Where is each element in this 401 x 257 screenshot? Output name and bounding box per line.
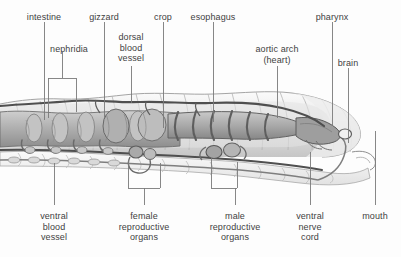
earthworm-anatomy-figure: intestine nephridia gizzard dorsal blood… [0, 0, 401, 257]
label-female-reproductive-organs: female reproductive organs [119, 211, 170, 243]
label-esophagus: esophagus [191, 12, 236, 23]
brain [339, 129, 352, 139]
label-male-reproductive-organs: male reproductive organs [210, 211, 261, 243]
label-gizzard: gizzard [89, 12, 119, 23]
label-aortic-arch: aortic arch (heart) [255, 44, 298, 65]
label-mouth: mouth [362, 211, 388, 222]
label-intestine: intestine [27, 12, 61, 23]
label-dorsal-blood-vessel: dorsal blood vessel [118, 32, 144, 64]
crop [138, 109, 166, 141]
label-crop: crop [154, 12, 172, 23]
mouth [352, 151, 375, 170]
label-pharynx: pharynx [316, 12, 349, 23]
label-ventral-nerve-cord: ventral nerve cord [296, 211, 324, 243]
gizzard [103, 109, 129, 143]
label-nephridia: nephridia [50, 44, 88, 55]
label-brain: brain [338, 58, 359, 69]
label-ventral-blood-vessel: ventral blood vessel [40, 211, 68, 243]
